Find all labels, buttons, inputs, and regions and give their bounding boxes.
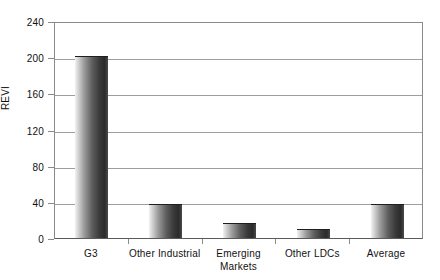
bar (371, 204, 404, 238)
y-tick-label: 200 (0, 53, 44, 64)
y-tick-label: 240 (0, 17, 44, 28)
x-tick-label-line: Markets (202, 260, 276, 273)
bar (297, 229, 330, 238)
x-tick-label-line: Other Industrial (128, 247, 202, 260)
bar (223, 223, 256, 238)
x-tick-label: Other LDCs (275, 247, 349, 260)
x-tick-mark (202, 239, 203, 244)
bar (75, 56, 108, 238)
x-tick-label: Other Industrial (128, 247, 202, 260)
x-tick-label-line: Other LDCs (275, 247, 349, 260)
y-tick-mark (48, 239, 54, 240)
x-tick-label: Average (349, 247, 423, 260)
x-tick-label: G3 (54, 247, 128, 260)
x-tick-mark (275, 239, 276, 244)
plot-area (54, 22, 423, 239)
x-tick-label-line: G3 (54, 247, 128, 260)
y-tick-label: 0 (0, 234, 44, 245)
y-tick-label: 80 (0, 161, 44, 172)
y-tick-label: 120 (0, 125, 44, 136)
y-tick-label: 160 (0, 89, 44, 100)
bar (149, 204, 182, 238)
x-tick-label-line: Average (349, 247, 423, 260)
x-tick-mark (128, 239, 129, 244)
bar-chart: REVI 04080120160200240 G3Other Industria… (0, 0, 440, 280)
x-tick-label: EmergingMarkets (202, 247, 276, 273)
x-tick-mark (349, 239, 350, 244)
bar-series (55, 23, 422, 238)
x-tick-label-line: Emerging (202, 247, 276, 260)
y-tick-label: 40 (0, 197, 44, 208)
